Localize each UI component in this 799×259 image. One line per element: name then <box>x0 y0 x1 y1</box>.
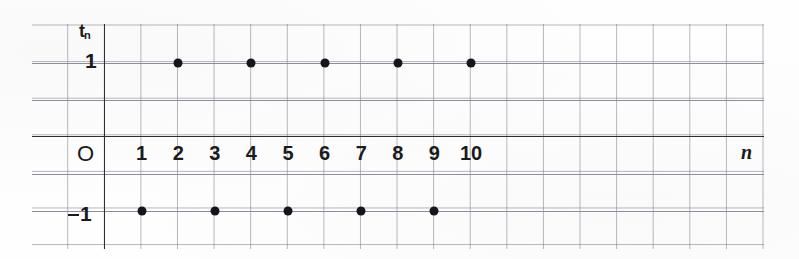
gridline-t-half <box>32 100 764 101</box>
data-point-n4 <box>247 58 256 67</box>
y-tick-label-one: 1 <box>85 50 97 71</box>
data-point-n10 <box>467 58 476 67</box>
data-point-n2 <box>174 58 183 67</box>
origin-label: O <box>77 143 94 165</box>
x-tick-label-6: 6 <box>319 143 330 163</box>
x-tick-label-10: 10 <box>460 143 482 163</box>
x-tick-label-4: 4 <box>246 143 257 163</box>
x-tick-label-1: 1 <box>136 143 147 163</box>
x-tick-label-9: 9 <box>429 143 440 163</box>
y-axis-label: tn <box>79 22 91 41</box>
x-axis-label: n <box>741 142 752 162</box>
x-tick-label-7: 7 <box>356 143 367 163</box>
gridline-t-negative-half <box>32 174 764 175</box>
data-point-n9 <box>430 207 439 216</box>
y-axis-line <box>104 24 105 249</box>
graph-figure: tn 1 O 1 n 12345678910 <box>0 0 799 259</box>
x-tick-label-8: 8 <box>392 143 403 163</box>
x-tick-label-3: 3 <box>209 143 220 163</box>
data-point-n3 <box>210 207 219 216</box>
y-tick-negative-one-digit: 1 <box>80 202 92 225</box>
x-tick-label-5: 5 <box>282 143 293 163</box>
data-point-n8 <box>393 58 402 67</box>
y-axis-label-subscript: n <box>84 29 91 41</box>
x-axis-line <box>32 136 764 137</box>
data-point-n6 <box>320 58 329 67</box>
x-tick-label-2: 2 <box>173 143 184 163</box>
y-tick-label-negative-one: 1 <box>68 203 92 224</box>
data-point-n5 <box>284 207 293 216</box>
minus-sign-icon <box>68 214 79 216</box>
data-point-n7 <box>357 207 366 216</box>
data-point-n1 <box>137 207 146 216</box>
